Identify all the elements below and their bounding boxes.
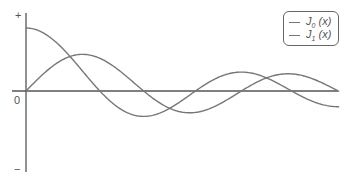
y-minus-label: − — [14, 164, 20, 175]
legend-label-j1: J1 (x) — [306, 28, 331, 42]
y-plus-label: + — [15, 10, 21, 21]
legend-item-j1: J1 (x) — [289, 29, 331, 42]
origin-label: 0 — [14, 95, 20, 106]
legend: J0 (x) J1 (x) — [283, 11, 339, 46]
legend-swatch-j1 — [289, 35, 300, 36]
legend-item-j0: J0 (x) — [289, 16, 331, 29]
legend-swatch-j0 — [289, 22, 300, 23]
j1-curve — [26, 54, 339, 112]
